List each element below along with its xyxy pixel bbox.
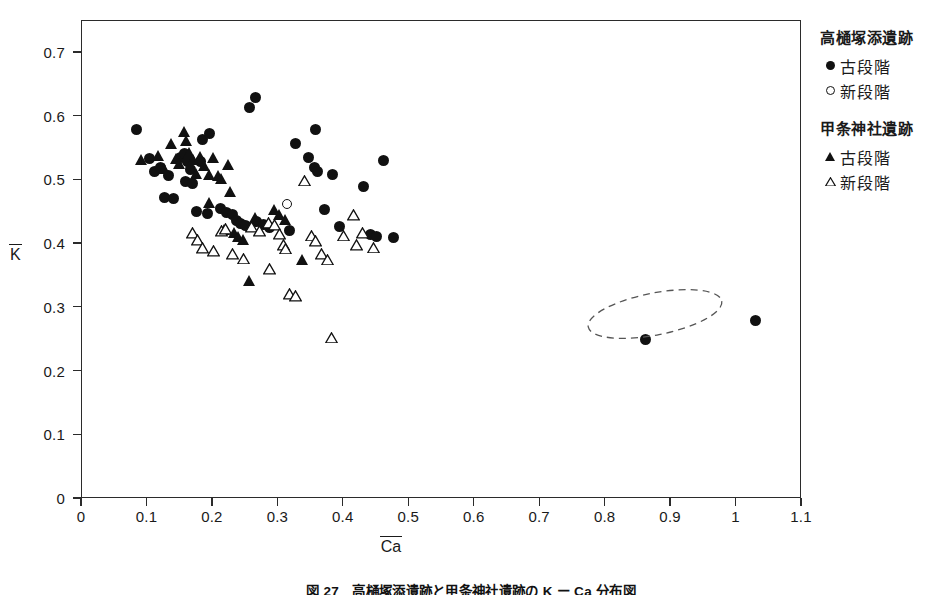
y-axis-title-text: K <box>10 246 21 264</box>
legend-label: 古段階 <box>840 54 891 78</box>
x-axis-tick-label: 0.8 <box>575 508 635 526</box>
y-axis-tick-label: 0.7 <box>23 45 65 60</box>
data-point <box>222 159 234 170</box>
data-point <box>215 173 227 184</box>
legend-entry-takahi-shin: 新段階 <box>820 78 942 103</box>
y-axis-tick-label: 0.2 <box>23 364 65 379</box>
y-axis-tick-label: 0.5 <box>23 172 65 187</box>
x-axis-tick <box>146 498 147 506</box>
legend-entry-kojo-ko: 古段階 <box>820 144 942 169</box>
data-point <box>327 169 338 180</box>
data-point <box>312 166 323 177</box>
x-axis-tick <box>735 498 736 506</box>
x-axis-tick <box>277 498 278 506</box>
legend-group-title-1: 高樋塚添遺跡 <box>820 26 942 47</box>
filled-circle-icon <box>820 61 840 70</box>
data-point <box>158 163 170 174</box>
legend-entry-takahi-ko: 古段階 <box>820 53 942 78</box>
x-axis-tick-label: 0 <box>51 508 111 526</box>
data-point <box>296 254 308 265</box>
data-point <box>310 124 321 135</box>
y-axis-tick <box>73 51 81 52</box>
legend-label: 古段階 <box>840 145 891 169</box>
data-point <box>378 155 389 166</box>
x-axis-title: Ca <box>0 538 942 556</box>
legend-entry-kojo-shin: 新段階 <box>820 169 942 194</box>
data-point <box>337 230 350 242</box>
data-point <box>303 152 314 163</box>
open-triangle-icon <box>820 177 840 187</box>
legend-label: 新段階 <box>840 170 891 194</box>
legend-group-title-2: 甲条神社遺跡 <box>820 117 942 138</box>
data-point <box>367 242 380 254</box>
y-axis-tick <box>73 242 81 243</box>
legend-label: 新段階 <box>840 79 891 103</box>
x-axis-tick-label: 0.3 <box>247 508 307 526</box>
y-axis-tick <box>73 497 81 498</box>
x-axis-tick <box>669 498 670 506</box>
y-axis-tick-label: 0.3 <box>23 300 65 315</box>
data-point <box>202 208 213 219</box>
y-axis-tick <box>73 179 81 180</box>
x-axis-tick <box>211 498 212 506</box>
data-point <box>263 263 276 275</box>
x-axis-tick-label: 0.2 <box>182 508 242 526</box>
y-axis-tick <box>73 306 81 307</box>
data-point <box>219 223 232 235</box>
x-axis-tick <box>342 498 343 506</box>
data-point <box>325 332 338 344</box>
x-axis-tick <box>539 498 540 506</box>
data-point <box>173 158 185 169</box>
filled-triangle-icon <box>820 152 840 161</box>
y-axis-tick-label: 0.1 <box>23 427 65 442</box>
data-point <box>289 290 302 302</box>
data-point <box>224 186 236 197</box>
x-axis-tick-label: 0.1 <box>116 508 176 526</box>
x-axis-tick <box>408 498 409 506</box>
y-axis-tick <box>73 370 81 371</box>
data-point <box>279 214 291 225</box>
data-point <box>237 253 250 265</box>
data-point <box>237 234 249 245</box>
y-axis-tick-label: 0 <box>23 491 65 506</box>
data-point <box>321 254 334 266</box>
data-point <box>350 239 363 251</box>
y-axis-tick-label: 0.6 <box>23 109 65 124</box>
x-axis-tick <box>473 498 474 506</box>
x-axis-tick-label: 1 <box>706 508 766 526</box>
data-point <box>203 197 215 208</box>
data-point <box>279 243 292 255</box>
outlier-ellipse-annotation <box>575 283 735 349</box>
data-point <box>152 150 164 161</box>
x-axis-tick-label: 0.6 <box>444 508 504 526</box>
legend: 高樋塚添遺跡 古段階 新段階 甲条神社遺跡 古段階 新段階 <box>820 26 942 194</box>
data-point <box>243 275 255 286</box>
y-axis-title: K <box>10 246 21 264</box>
data-point <box>309 235 322 247</box>
x-axis-tick-label: 0.5 <box>378 508 438 526</box>
x-axis-tick-label: 0.7 <box>509 508 569 526</box>
data-point <box>273 228 286 240</box>
y-axis-tick <box>73 115 81 116</box>
x-axis-tick <box>800 498 801 506</box>
x-axis-tick-label: 0.4 <box>313 508 373 526</box>
data-point <box>750 315 761 326</box>
figure-caption: 図 27 高樋塚添遺跡と甲条神社遺跡の K ー Ca 分布図 <box>0 580 942 595</box>
data-point <box>204 128 215 139</box>
data-point <box>250 92 261 103</box>
y-axis-tick <box>73 434 81 435</box>
data-point <box>168 193 179 204</box>
data-point <box>207 245 220 257</box>
data-point <box>298 175 311 187</box>
x-axis-tick <box>80 498 81 506</box>
data-point <box>207 152 219 163</box>
data-point <box>135 154 147 165</box>
data-point <box>347 209 360 221</box>
x-axis-tick <box>604 498 605 506</box>
figure-scatter-plot: 00.10.20.30.40.50.60.70.80.911.10.70.60.… <box>0 0 942 595</box>
data-point <box>180 135 192 146</box>
data-point <box>165 138 177 149</box>
data-point <box>356 227 369 239</box>
x-axis-tick-label: 0.9 <box>640 508 700 526</box>
open-circle-icon <box>820 86 840 95</box>
